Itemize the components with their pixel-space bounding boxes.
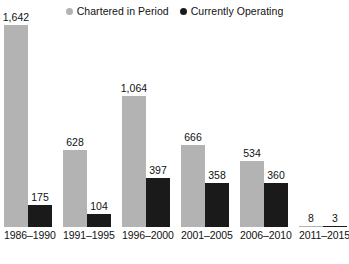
bar-group: 1,064397	[122, 24, 170, 227]
bar-column-chartered[interactable]: 1,064	[122, 24, 146, 227]
bar-column-chartered[interactable]: 1,642	[4, 24, 28, 227]
bar-value-label: 8	[308, 212, 314, 224]
bar-chartered[interactable]	[63, 150, 87, 227]
x-axis-label: 1996–2000	[122, 228, 170, 242]
bar-column-operating[interactable]: 175	[28, 24, 52, 227]
bar-group: 628104	[63, 24, 111, 227]
bar-value-label: 534	[243, 147, 261, 159]
bar-group: 83	[299, 24, 347, 227]
bar-column-chartered[interactable]: 666	[181, 24, 205, 227]
bar-group: 666358	[181, 24, 229, 227]
bar-column-chartered[interactable]: 8	[299, 24, 323, 227]
bar-column-operating[interactable]: 397	[146, 24, 170, 227]
bar-column-operating[interactable]: 360	[264, 24, 288, 227]
bar-chartered[interactable]	[181, 145, 205, 227]
bar-value-label: 628	[66, 136, 84, 148]
plot-area: 1,6421756281041,06439766635853436083 198…	[0, 0, 349, 246]
bar-value-label: 358	[208, 169, 226, 181]
bar-column-operating[interactable]: 104	[87, 24, 111, 227]
bar-value-label: 360	[267, 169, 285, 181]
bar-column-operating[interactable]: 3	[323, 24, 347, 227]
bar-group: 534360	[240, 24, 288, 227]
bar-operating[interactable]	[146, 178, 170, 227]
x-axis-labels: 1986–19901991–19951996–20002001–20052006…	[4, 228, 347, 246]
bar-chart: Chartered in Period Currently Operating …	[0, 0, 349, 264]
bar-value-label: 666	[184, 131, 202, 143]
bar-operating[interactable]	[205, 183, 229, 227]
bar-group: 1,642175	[4, 24, 52, 227]
bar-chartered[interactable]	[240, 161, 264, 227]
bar-value-label: 1,642	[3, 11, 30, 23]
x-axis-label: 1986–1990	[4, 228, 52, 242]
x-axis-label: 2001–2005	[181, 228, 229, 242]
bar-column-operating[interactable]: 358	[205, 24, 229, 227]
bar-value-label: 3	[332, 212, 338, 224]
bar-value-label: 1,064	[121, 82, 148, 94]
bar-value-label: 104	[90, 200, 108, 212]
bar-chartered[interactable]	[299, 226, 323, 227]
bar-groups: 1,6421756281041,06439766635853436083	[4, 24, 347, 227]
x-axis-label: 2011–2015	[299, 228, 347, 242]
bar-chartered[interactable]	[122, 96, 146, 227]
bar-value-label: 175	[31, 191, 49, 203]
bar-value-label: 397	[149, 164, 167, 176]
bar-chartered[interactable]	[4, 25, 28, 227]
bar-operating[interactable]	[323, 226, 347, 227]
bar-operating[interactable]	[264, 183, 288, 227]
bar-operating[interactable]	[28, 205, 52, 227]
x-axis-label: 2006–2010	[240, 228, 288, 242]
bar-operating[interactable]	[87, 214, 111, 227]
bar-column-chartered[interactable]: 628	[63, 24, 87, 227]
x-axis-label: 1991–1995	[63, 228, 111, 242]
bar-column-chartered[interactable]: 534	[240, 24, 264, 227]
